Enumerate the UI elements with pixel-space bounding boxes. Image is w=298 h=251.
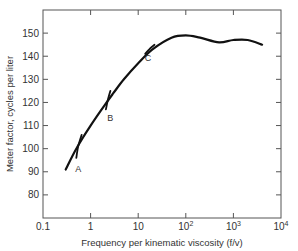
x-tick-label: 1 bbox=[88, 221, 94, 232]
curve-universal-curve bbox=[66, 35, 262, 169]
y-tick-label: 150 bbox=[22, 28, 39, 39]
x-tick-label: 10 bbox=[133, 221, 145, 232]
y-axis-title: Meter factor, cycles per liter bbox=[4, 56, 15, 172]
x-tick-label: 104 bbox=[273, 220, 288, 232]
y-axis-ticks: 8090100110120130140150 bbox=[22, 28, 281, 201]
y-tick-label: 140 bbox=[22, 51, 39, 62]
curve-label-c: C bbox=[145, 53, 152, 63]
y-tick-label: 100 bbox=[22, 143, 39, 154]
curve-labels: ABC bbox=[75, 53, 151, 174]
curve-label-b: B bbox=[107, 113, 113, 123]
y-tick-label: 80 bbox=[28, 189, 40, 200]
y-tick-label: 130 bbox=[22, 74, 39, 85]
y-tick-label: 120 bbox=[22, 97, 39, 108]
data-series bbox=[66, 35, 262, 169]
plot-frame bbox=[43, 10, 281, 218]
x-tick-label: 102 bbox=[178, 220, 193, 232]
curve-b bbox=[106, 91, 111, 110]
x-tick-label: 0.1 bbox=[36, 221, 50, 232]
meter-factor-chart: 8090100110120130140150 0.1110102103104 A… bbox=[0, 0, 298, 251]
x-tick-label: 103 bbox=[226, 220, 241, 232]
curve-label-a: A bbox=[75, 164, 81, 174]
y-tick-label: 90 bbox=[28, 166, 40, 177]
y-tick-label: 110 bbox=[23, 120, 39, 131]
x-axis-title: Frequency per kinematic viscosity (f/v) bbox=[81, 237, 243, 248]
